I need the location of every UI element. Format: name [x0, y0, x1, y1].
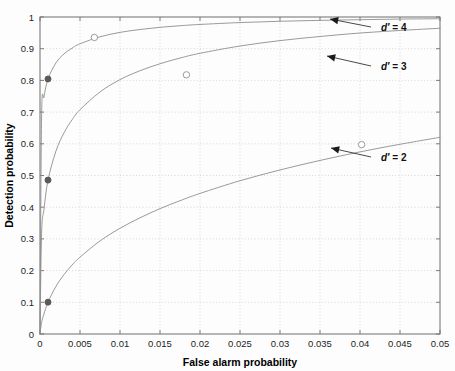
grid-lines	[40, 17, 440, 334]
y-tick-label: 0	[29, 329, 34, 340]
annotation-label: d′ = 3	[381, 61, 407, 72]
curve-annotation: d′ = 2	[331, 146, 407, 163]
curve-annotation: d′ = 3	[327, 54, 407, 72]
y-tick-label: 0.1	[21, 297, 34, 308]
roc-curve	[40, 137, 440, 334]
arrow-head-icon	[327, 54, 336, 61]
y-tick-label: 1	[29, 12, 34, 23]
y-tick-label: 0.9	[21, 43, 34, 54]
y-tick-label: 0.4	[21, 202, 34, 213]
axis-title-y: Detection probability	[3, 123, 15, 228]
y-tick-label: 0.7	[21, 107, 34, 118]
arrow-head-icon	[331, 146, 340, 153]
y-tick-label: 0.2	[21, 265, 34, 276]
x-tick-label: 0.045	[388, 338, 412, 349]
y-tick-label: 0.3	[21, 233, 34, 244]
y-tick-label: 0.6	[21, 138, 34, 149]
x-tick-label: 0.04	[351, 338, 370, 349]
filled-marker	[45, 177, 51, 183]
x-tick-label: 0.02	[191, 338, 210, 349]
x-tick-label: 0.05	[431, 338, 450, 349]
annotation-label: d′ = 2	[381, 152, 407, 163]
x-tick-label: 0.015	[148, 338, 172, 349]
open-marker	[183, 72, 189, 78]
filled-marker	[45, 299, 51, 305]
x-tick-label: 0.025	[228, 338, 252, 349]
open-marker	[91, 34, 97, 40]
data-point-markers	[45, 34, 365, 305]
tick-labels-y: 00.10.20.30.40.50.60.70.80.91	[21, 12, 34, 340]
figure-container: 00.0050.010.0150.020.0250.030.0350.040.0…	[0, 0, 455, 371]
curve-annotations: d′ = 4d′ = 3d′ = 2	[327, 17, 407, 163]
y-tick-label: 0.8	[21, 75, 34, 86]
filled-marker	[45, 76, 51, 82]
x-tick-label: 0.035	[308, 338, 332, 349]
x-tick-label: 0	[37, 338, 42, 349]
open-marker	[358, 141, 364, 147]
y-tick-label: 0.5	[21, 170, 34, 181]
x-tick-label: 0.01	[111, 338, 130, 349]
axis-title-x: False alarm probability	[183, 356, 298, 368]
tick-labels-x: 00.0050.010.0150.020.0250.030.0350.040.0…	[37, 338, 449, 349]
roc-chart: 00.0050.010.0150.020.0250.030.0350.040.0…	[0, 0, 455, 371]
annotation-label: d′ = 4	[381, 22, 407, 33]
x-tick-label: 0.005	[68, 338, 92, 349]
x-axis-title: False alarm probability	[183, 356, 298, 368]
y-axis-title: Detection probability	[3, 123, 15, 228]
x-tick-label: 0.03	[271, 338, 290, 349]
